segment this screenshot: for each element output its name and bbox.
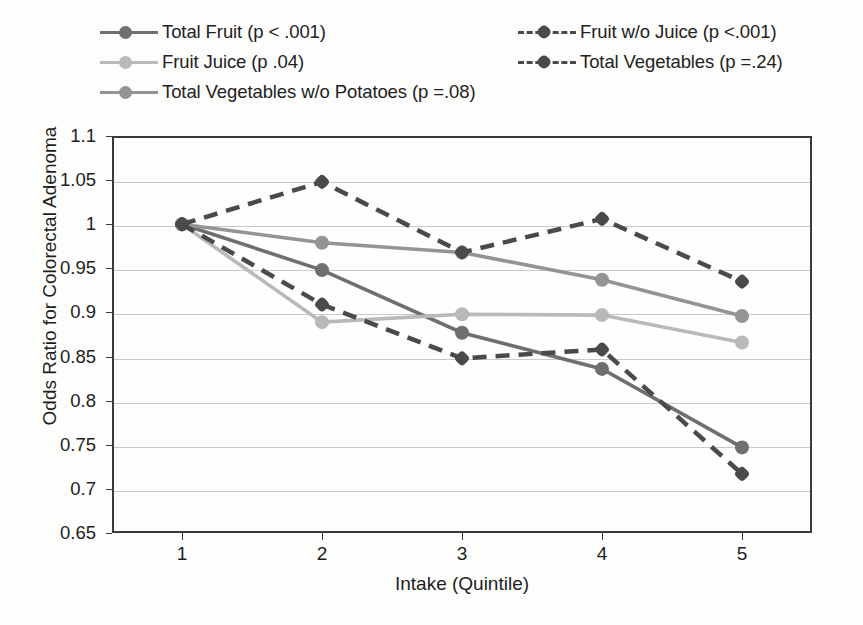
legend-swatch-icon	[100, 82, 158, 102]
data-series	[174, 173, 751, 290]
y-axis-tick-label: 0.85	[60, 346, 96, 368]
x-axis-tick-label: 1	[177, 543, 188, 565]
legend-label: Fruit Juice (p .04)	[162, 51, 304, 73]
x-axis-labels: 12345	[112, 543, 812, 571]
legend-item[interactable]: Fruit Juice (p .04)	[100, 51, 304, 73]
legend-marker-icon	[119, 56, 132, 69]
legend-marker-icon	[536, 24, 553, 41]
legend-item[interactable]: Total Vegetables w/o Potatoes (p =.08)	[100, 81, 475, 103]
chart-container: Total Fruit (p < .001)Fruit Juice (p .04…	[0, 0, 863, 625]
legend-item[interactable]: Total Vegetables (p =.24)	[518, 51, 783, 73]
x-axis-tick-mark	[462, 533, 463, 540]
series-marker	[594, 210, 611, 227]
chart-legend: Total Fruit (p < .001)Fruit Juice (p .04…	[100, 18, 860, 110]
x-axis-tick-label: 3	[457, 543, 468, 565]
series-marker	[454, 350, 471, 367]
legend-item[interactable]: Fruit w/o Juice (p <.001)	[518, 21, 776, 43]
series-marker	[314, 296, 331, 313]
data-series-layer	[112, 136, 812, 533]
x-axis-tick-mark	[602, 533, 603, 540]
legend-label: Total Fruit (p < .001)	[162, 21, 326, 43]
x-axis-tick-label: 5	[737, 543, 748, 565]
series-marker	[735, 335, 749, 349]
data-series	[175, 217, 749, 323]
y-axis-tick-label: 1.05	[60, 169, 96, 191]
series-marker	[315, 236, 329, 250]
x-axis-tick-label: 4	[597, 543, 608, 565]
legend-swatch-icon	[100, 52, 158, 72]
x-axis-tick-mark	[322, 533, 323, 540]
series-marker	[595, 273, 609, 287]
legend-swatch-icon	[518, 52, 576, 72]
series-marker	[595, 362, 609, 376]
series-marker	[454, 244, 471, 261]
y-axis-tick-label: 0.7	[70, 478, 96, 500]
legend-swatch-icon	[518, 22, 576, 42]
series-marker	[734, 273, 751, 290]
x-axis-title: Intake (Quintile)	[112, 573, 812, 595]
legend-label: Total Vegetables (p =.24)	[580, 51, 783, 73]
series-marker	[315, 315, 329, 329]
y-axis-tick-label: 0.95	[60, 257, 96, 279]
y-axis-tick-label: 0.8	[70, 390, 96, 412]
y-axis-tick-label: 0.75	[60, 434, 96, 456]
series-marker	[735, 309, 749, 323]
y-axis-tick-label: 1	[86, 213, 96, 235]
series-marker	[315, 263, 329, 277]
series-marker	[455, 326, 469, 340]
x-axis-ticks	[112, 533, 812, 543]
legend-marker-icon	[536, 54, 553, 71]
series-marker	[314, 173, 331, 190]
series-marker	[455, 307, 469, 321]
series-marker	[595, 308, 609, 322]
legend-label: Fruit w/o Juice (p <.001)	[580, 21, 776, 43]
legend-item[interactable]: Total Fruit (p < .001)	[100, 21, 326, 43]
legend-marker-icon	[119, 26, 132, 39]
y-axis-title: Odds Ratio for Colorectal Adenoma	[39, 76, 61, 476]
y-axis-tick-label: 0.65	[60, 522, 96, 544]
series-line	[182, 224, 742, 474]
y-axis-tick-label: 1.1	[70, 125, 96, 147]
legend-swatch-icon	[100, 22, 158, 42]
y-axis-tick-label: 0.9	[70, 301, 96, 323]
legend-marker-icon	[119, 86, 132, 99]
series-line	[182, 182, 742, 282]
x-axis-tick-mark	[182, 533, 183, 540]
series-marker	[735, 440, 749, 454]
x-axis-tick-label: 2	[317, 543, 328, 565]
x-axis-tick-mark	[742, 533, 743, 540]
legend-label: Total Vegetables w/o Potatoes (p =.08)	[162, 81, 475, 103]
